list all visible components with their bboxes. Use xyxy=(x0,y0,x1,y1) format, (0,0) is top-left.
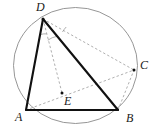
segment-d-c xyxy=(43,19,134,70)
segment-d-b xyxy=(43,19,118,110)
vertex-label-d: D xyxy=(35,0,45,14)
vertex-label-e: E xyxy=(63,94,72,108)
angle-arc-e-d-b xyxy=(48,36,57,40)
angle-arc-a-d-e xyxy=(41,34,47,35)
vertex-label-b: B xyxy=(126,111,134,125)
segment-a-d xyxy=(26,19,43,110)
angle-arcs-group xyxy=(41,27,67,40)
vertex-dot-d xyxy=(42,18,45,21)
segment-a-c xyxy=(26,70,134,110)
vertex-dots-group xyxy=(42,18,136,95)
solid-segments-group xyxy=(26,19,118,110)
circumscribed-circle xyxy=(14,8,138,124)
geometry-figure: ABCDE xyxy=(0,0,153,130)
figure-canvas: ABCDE xyxy=(0,0,153,130)
vertex-label-a: A xyxy=(14,110,23,124)
vertex-label-c: C xyxy=(140,58,149,72)
vertex-dot-c xyxy=(133,69,136,72)
